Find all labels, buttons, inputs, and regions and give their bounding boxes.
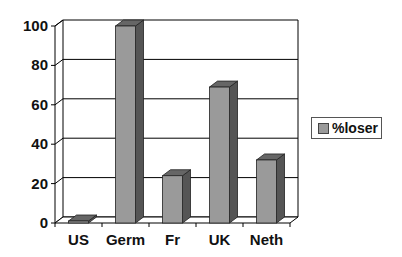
legend-label: %loser xyxy=(332,120,378,136)
legend-swatch-icon xyxy=(318,123,329,134)
y-tick-label: 100 xyxy=(23,17,48,34)
x-tick-label: US xyxy=(68,231,89,248)
bars xyxy=(69,20,285,223)
y-axis-ticks: 020406080100 xyxy=(23,17,48,231)
bar-fr xyxy=(163,170,191,223)
x-axis-labels: USGermFrUKNeth xyxy=(55,223,290,248)
y-tick-label: 0 xyxy=(40,214,48,231)
x-tick-label: UK xyxy=(209,231,231,248)
x-tick-label: Neth xyxy=(250,231,283,248)
y-tick-label: 80 xyxy=(31,56,48,73)
y-tick-label: 60 xyxy=(31,96,48,113)
bar-uk xyxy=(210,81,238,223)
x-tick-label: Germ xyxy=(106,231,145,248)
x-tick-label: Fr xyxy=(165,231,180,248)
y-tick-label: 40 xyxy=(31,135,48,152)
y-tick-label: 20 xyxy=(31,175,48,192)
bar-germ xyxy=(116,20,144,223)
legend: %loser xyxy=(311,117,382,139)
bar-neth xyxy=(257,154,285,223)
